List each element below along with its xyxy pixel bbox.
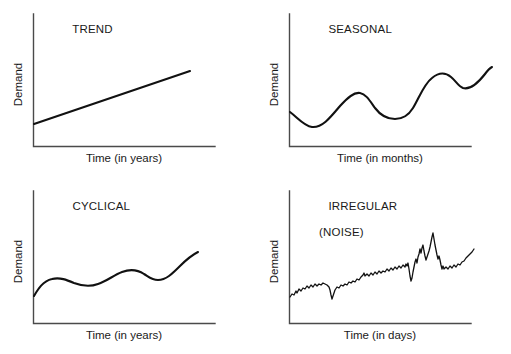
x-axis-label-trend: Time (in years) <box>33 152 215 165</box>
trend-plot <box>0 0 255 177</box>
x-axis-label-seasonal: Time (in months) <box>289 152 471 165</box>
panel-seasonal: SEASONAL Demand Time (in months) <box>256 0 511 177</box>
panel-trend: TREND Demand Time (in years) <box>0 0 255 177</box>
panel-irregular: IRREGULAR (NOISE) Demand Time (in days) <box>256 177 511 354</box>
y-axis-label-cyclical: Demand <box>12 228 25 296</box>
y-axis-label-irregular: Demand <box>268 228 281 296</box>
seasonal-series-line <box>290 67 492 127</box>
y-axis-label-seasonal: Demand <box>268 51 281 119</box>
x-axis-label-cyclical: Time (in years) <box>33 329 215 342</box>
panel-title-seasonal: SEASONAL <box>308 10 392 49</box>
panel-title-trend: TREND <box>52 10 113 49</box>
cyclical-series-line <box>34 252 198 296</box>
panel-cyclical: CYCLICAL Demand Time (in years) <box>0 177 255 354</box>
panel-title-seasonal-text: SEASONAL <box>328 23 392 35</box>
panel-title-irregular: IRREGULAR (NOISE) <box>308 187 397 265</box>
y-axis-label-trend: Demand <box>12 51 25 119</box>
panel-title-trend-text: TREND <box>72 23 113 35</box>
panel-title-irregular-text: IRREGULAR <box>328 200 397 212</box>
time-series-patterns-figure: TREND Demand Time (in years) SEASONAL De… <box>0 0 511 354</box>
panel-title-irregular-subtext: (NOISE) <box>308 226 397 239</box>
panel-title-cyclical: CYCLICAL <box>52 187 130 226</box>
x-axis-label-irregular: Time (in days) <box>289 329 471 342</box>
panel-title-cyclical-text: CYCLICAL <box>72 200 130 212</box>
trend-series-line <box>34 71 190 124</box>
